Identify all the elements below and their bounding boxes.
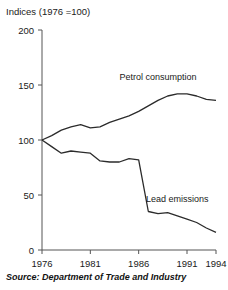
y-tick-label: 200 xyxy=(18,25,34,36)
x-tick-label: 1976 xyxy=(31,258,52,269)
y-tick-label: 50 xyxy=(23,190,34,201)
x-tick-label: 1981 xyxy=(80,258,101,269)
y-tick-label: 150 xyxy=(18,80,34,91)
series-line-lead-emissions xyxy=(42,140,216,232)
series-label-group: Petrol consumptionLead emissions xyxy=(119,72,209,204)
series-group xyxy=(42,94,216,233)
y-tick-label: 0 xyxy=(29,245,34,256)
series-line-petrol-consumption xyxy=(42,94,216,140)
axes-group xyxy=(42,30,216,250)
source-note: Source: Department of Trade and Industry xyxy=(6,272,186,282)
series-annotation-petrol-consumption: Petrol consumption xyxy=(119,72,196,82)
series-annotation-lead-emissions: Lead emissions xyxy=(146,194,209,204)
x-tick-label: 1994 xyxy=(205,258,226,269)
x-tick-group: 19761981198619911994 xyxy=(31,250,226,269)
x-tick-label: 1986 xyxy=(128,258,149,269)
line-chart-plot: 050100150200 19761981198619911994 Petrol… xyxy=(0,0,228,290)
chart-figure: Indices (1976 =100) 050100150200 1976198… xyxy=(0,0,228,290)
x-tick-label: 1991 xyxy=(176,258,197,269)
y-tick-label: 100 xyxy=(18,135,34,146)
y-tick-group: 050100150200 xyxy=(18,25,42,256)
